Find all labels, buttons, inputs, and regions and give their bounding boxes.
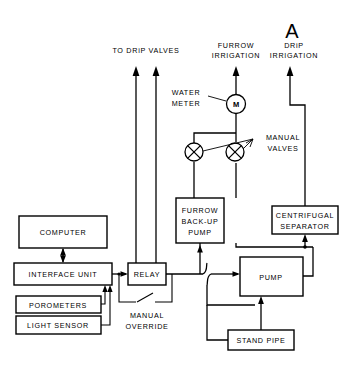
label-manual-override-line1: MANUAL bbox=[130, 311, 164, 320]
line-pump-to-separator bbox=[302, 234, 313, 276]
label-computer: COMPUTER bbox=[40, 228, 87, 237]
link-porometers-interface bbox=[101, 285, 108, 304]
line-separator-bypass bbox=[236, 243, 305, 247]
arrowhead-furrow-irrigation bbox=[233, 66, 240, 76]
panel-label-a: A bbox=[285, 20, 299, 42]
box-computer[interactable]: COMPUTER bbox=[19, 216, 107, 248]
label-interface-unit: INTERFACE UNIT bbox=[29, 270, 98, 279]
label-centrifugal-separator-line2: SEPARATOR bbox=[280, 222, 329, 231]
diagram-canvas: TO DRiP VALVES FURROW IRRIGATION DRiP IR… bbox=[0, 0, 360, 365]
box-furrow-backup-pump[interactable]: FURROW BACK-UP PUMP bbox=[176, 198, 224, 243]
label-manual-valves-line2: VALVES bbox=[267, 144, 298, 153]
arrowhead-drip-valves-2 bbox=[153, 66, 160, 76]
arrowhead-drip-valves-1 bbox=[133, 66, 140, 76]
label-drip-irrigation-line2: IRRIGATION bbox=[270, 51, 318, 60]
label-manual-override-line2: OVERRIDE bbox=[125, 322, 168, 331]
label-furrow-backup-pump-line3: PUMP bbox=[188, 228, 212, 237]
box-light-sensor[interactable]: LIGHT SENSOR bbox=[16, 316, 101, 334]
line-standpipe-to-pump bbox=[258, 296, 264, 330]
box-porometers[interactable]: POROMETERS bbox=[16, 296, 101, 313]
label-centrifugal-separator-line1: CENTRIFUGAL bbox=[276, 211, 334, 220]
line-standpipe-left-feed bbox=[207, 305, 228, 340]
label-relay: RELAY bbox=[134, 270, 161, 279]
label-furrow-irrigation-line2: IRRIGATION bbox=[212, 51, 260, 60]
label-light-sensor: LIGHT SENSOR bbox=[27, 321, 89, 330]
line-valve-branch bbox=[194, 133, 236, 198]
arrowhead-drip-irrigation bbox=[287, 66, 294, 76]
label-water-meter-line1: WATER bbox=[172, 88, 201, 97]
label-manual-valves-line1: MANUAL bbox=[266, 133, 300, 142]
line-relay-to-pump bbox=[166, 263, 240, 285]
line-drip-valve-riser-1 bbox=[133, 66, 140, 263]
water-meter-m-glyph: M bbox=[233, 100, 239, 109]
label-pump: PUMP bbox=[259, 273, 283, 282]
box-stand-pipe[interactable]: STAND PIPE bbox=[228, 330, 294, 350]
box-relay[interactable]: RELAY bbox=[128, 263, 166, 285]
label-furrow-backup-pump-line1: FURROW bbox=[182, 206, 219, 215]
box-centrifugal-separator[interactable]: CENTRIFUGAL SEPARATOR bbox=[272, 206, 338, 234]
link-computer-interface bbox=[60, 248, 66, 263]
manual-valve-left bbox=[185, 143, 203, 161]
label-to-drip-valves: TO DRiP VALVES bbox=[112, 46, 179, 55]
water-meter-leader bbox=[208, 96, 226, 101]
irrigation-control-schematic: TO DRiP VALVES FURROW IRRIGATION DRiP IR… bbox=[0, 0, 360, 365]
box-interface-unit[interactable]: INTERFACE UNIT bbox=[14, 263, 112, 285]
water-meter-symbol: M bbox=[227, 95, 246, 114]
label-furrow-irrigation-line1: FURROW bbox=[218, 41, 255, 50]
manual-valve-right bbox=[226, 143, 244, 161]
box-pump[interactable]: PUMP bbox=[240, 257, 303, 296]
label-porometers: POROMETERS bbox=[29, 301, 87, 310]
label-water-meter-line2: METER bbox=[172, 99, 201, 108]
line-drip-valve-riser-2 bbox=[153, 66, 160, 263]
label-drip-irrigation-line1: DRiP bbox=[284, 41, 304, 50]
label-stand-pipe: STAND PIPE bbox=[236, 336, 285, 345]
line-furrow-irrigation-riser bbox=[233, 66, 240, 198]
label-furrow-backup-pump-line2: BACK-UP bbox=[182, 217, 219, 226]
